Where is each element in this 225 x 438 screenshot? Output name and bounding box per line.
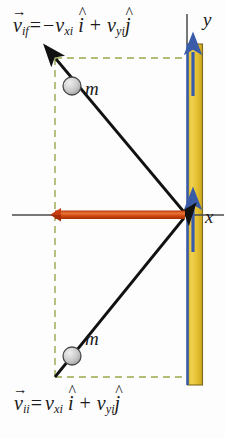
final-velocity-j-hat: j — [125, 14, 131, 36]
final-velocity-subscript: if — [22, 24, 29, 38]
initial-velocity-equals: = — [30, 392, 43, 414]
mass-label-incoming: m — [85, 328, 99, 350]
equation-final-velocity: vif=−vxi i + vyij — [13, 14, 130, 39]
final-velocity-equals: = — [29, 14, 42, 36]
mass-label-outgoing: m — [85, 78, 99, 100]
final-velocity-x-component: v — [55, 14, 64, 36]
initial-velocity-i-hat: i — [68, 392, 74, 414]
equation-initial-velocity: vii=vxi i + vyij — [14, 392, 120, 417]
x-axis-label: x — [205, 206, 213, 228]
final-velocity-y-component: v — [107, 14, 116, 36]
impulse-arrow-negative-x — [50, 208, 185, 222]
final-velocity-y-subscript: yi — [116, 24, 125, 38]
diagram-canvas — [0, 0, 225, 438]
mass-ball-outgoing — [63, 77, 81, 95]
initial-velocity-j-hat: j — [115, 392, 121, 414]
initial-velocity-y-component: v — [97, 392, 106, 414]
initial-velocity-x-component: v — [45, 392, 54, 414]
initial-velocity-subscript: ii — [23, 402, 30, 416]
mass-ball-incoming — [63, 347, 81, 365]
final-velocity-x-subscript: xi — [64, 24, 73, 38]
initial-velocity-x-subscript: xi — [54, 402, 63, 416]
collision-diagram: vif=−vxi i + vyij vii=vxi i + vyij y x m… — [0, 0, 225, 438]
initial-velocity-symbol: v — [14, 392, 23, 414]
final-velocity-x-sign: − — [42, 14, 55, 36]
initial-velocity-plus: + — [78, 392, 91, 414]
y-axis-label: y — [203, 9, 211, 31]
final-velocity-i-hat: i — [78, 14, 84, 36]
final-velocity-plus: + — [89, 14, 102, 36]
final-velocity-symbol: v — [13, 14, 22, 36]
initial-velocity-y-subscript: yi — [106, 402, 115, 416]
